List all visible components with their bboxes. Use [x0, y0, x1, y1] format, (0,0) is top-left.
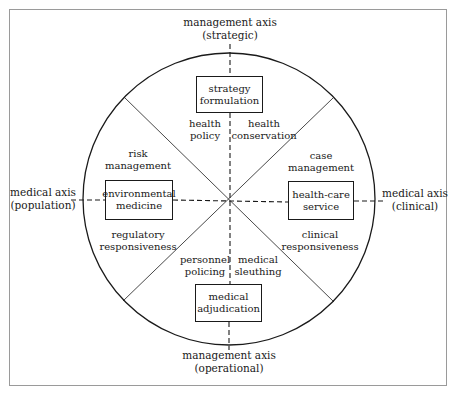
box-environmental-medicine: environmental medicine	[105, 180, 173, 220]
sector-right-upper-line2: management	[288, 162, 354, 174]
sector-right-lower-line2: responsiveness	[281, 241, 358, 253]
sector-medical-sleuthing: medical sleuthing	[234, 254, 281, 278]
sector-bottom-left-line2: policing	[180, 266, 230, 278]
box-top-line1: strategy	[209, 83, 251, 95]
sector-bottom-right-line2: sleuthing	[234, 266, 281, 278]
sector-case-management: case management	[288, 150, 354, 174]
axis-label-right-line2: (clinical)	[382, 200, 448, 213]
sector-personnel-policing: personnel policing	[180, 254, 230, 278]
box-left-line2: medicine	[116, 200, 162, 212]
axis-label-left-line2: (population)	[10, 199, 76, 212]
sector-left-lower-line1: regulatory	[99, 229, 176, 241]
box-right-line2: service	[303, 201, 339, 213]
axis-label-bottom-line1: management axis	[182, 349, 276, 362]
sector-risk-management: risk management	[105, 148, 171, 172]
axis-label-bottom-line2: (operational)	[182, 362, 276, 375]
sector-bottom-left-line1: personnel	[180, 254, 230, 266]
box-medical-adjudication: medical adjudication	[195, 284, 262, 322]
sector-health-conservation: health conservation	[231, 118, 296, 142]
sector-regulatory-responsiveness: regulatory responsiveness	[99, 229, 176, 253]
sector-right-upper-line1: case	[288, 150, 354, 162]
sector-left-upper-line1: risk	[105, 148, 171, 160]
box-right-line1: health-care	[292, 189, 350, 201]
axis-label-left: medical axis (population)	[10, 186, 76, 212]
box-top-line2: formulation	[200, 95, 259, 107]
sector-right-lower-line1: clinical	[281, 229, 358, 241]
axis-label-bottom: management axis (operational)	[182, 349, 276, 375]
sector-top-right-line1: health	[231, 118, 296, 130]
box-strategy-formulation: strategy formulation	[196, 76, 263, 113]
axis-label-top: management axis (strategic)	[183, 16, 277, 42]
sector-top-left-line2: policy	[189, 130, 221, 142]
axis-label-left-line1: medical axis	[10, 186, 76, 199]
axis-label-top-line2: (strategic)	[183, 29, 277, 42]
sector-top-left-line1: health	[189, 118, 221, 130]
axis-label-right: medical axis (clinical)	[382, 187, 448, 213]
sector-left-lower-line2: responsiveness	[99, 241, 176, 253]
axis-label-top-line1: management axis	[183, 16, 277, 29]
sector-health-policy: health policy	[189, 118, 221, 142]
sector-bottom-right-line1: medical	[234, 254, 281, 266]
box-bottom-line2: adjudication	[197, 303, 260, 315]
sector-clinical-responsiveness: clinical responsiveness	[281, 229, 358, 253]
sector-top-right-line2: conservation	[231, 130, 296, 142]
axis-label-right-line1: medical axis	[382, 187, 448, 200]
sector-left-upper-line2: management	[105, 160, 171, 172]
box-left-line1: environmental	[102, 188, 175, 200]
box-bottom-line1: medical	[209, 291, 249, 303]
box-health-care-service: health-care service	[288, 181, 354, 220]
